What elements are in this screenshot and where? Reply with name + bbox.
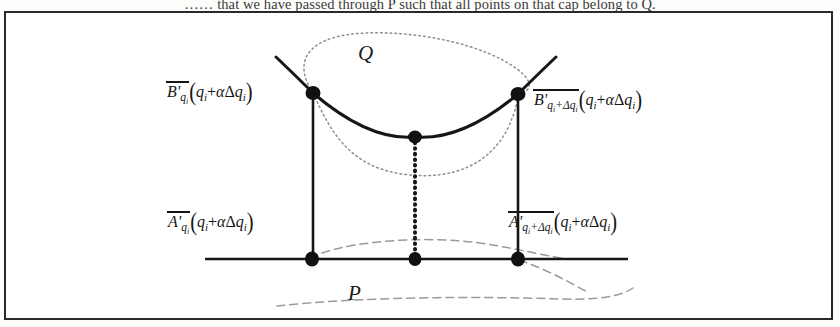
label-lower-right-sub-q-index: i: [550, 227, 552, 236]
label-upper-right-paren-open: (: [579, 88, 586, 112]
label-lower-right-delta: Δ: [589, 213, 599, 230]
label-lower-right-sub-plus: +: [530, 221, 538, 233]
label-upper-left: B'qi(qi+αΔqi): [166, 82, 253, 106]
label-upper-right-sub-delta: Δ: [563, 99, 570, 111]
label-upper-right: B'qi+Δqi(qi+αΔqi): [533, 90, 642, 114]
label-lower-right: A'qi+Δqi(qi+αΔqi): [508, 212, 617, 236]
label-lower-left-sub-index: i: [187, 227, 189, 236]
label-lower-left-head: A': [168, 213, 181, 230]
label-upper-right-alpha: α: [606, 91, 614, 108]
label-lower-right-sub-delta: Δ: [538, 221, 545, 233]
dot-upper-right: [511, 87, 526, 101]
label-lower-right-alpha: α: [581, 213, 589, 230]
figure-page: …… that we have passed through P such th…: [0, 0, 840, 327]
label-lower-left-paren-open: (: [190, 210, 197, 234]
region-label-q: Q: [358, 43, 373, 64]
label-upper-left-delta: Δ: [224, 83, 234, 100]
label-lower-left-argq: q: [236, 213, 244, 230]
label-lower-left-arg: q: [197, 213, 205, 230]
label-upper-left-paren-open: (: [189, 80, 196, 104]
label-upper-left-sub: qi: [180, 92, 188, 105]
label-upper-right-sub: qi+Δqi: [547, 100, 577, 113]
dot-upper-left: [306, 86, 321, 100]
label-upper-right-sub-plus: +: [555, 99, 563, 111]
label-lower-right-plus: +: [572, 213, 581, 230]
dot-lower-right: [511, 252, 525, 267]
label-lower-right-head: A': [509, 213, 522, 230]
label-upper-left-plus: +: [207, 83, 216, 100]
label-lower-left-paren-close: ): [247, 210, 254, 234]
figure-canvas: [0, 0, 840, 327]
label-upper-right-plus: +: [597, 91, 606, 108]
label-upper-left-sub-index: i: [186, 97, 188, 106]
label-upper-left-argq: q: [235, 83, 243, 100]
label-lower-left-overbar: A'qi: [167, 214, 190, 236]
region-label-p: P: [348, 283, 361, 304]
label-upper-left-head: B': [167, 83, 180, 100]
label-lower-right-paren-open: (: [554, 210, 561, 234]
label-lower-right-overbar: A'qi+Δqi: [508, 214, 554, 236]
label-lower-right-sub: qi+Δqi: [522, 222, 552, 235]
label-lower-left-sub: qi: [181, 222, 189, 235]
p-region-outline: [277, 240, 633, 306]
dot-curve-mid: [408, 131, 422, 144]
label-lower-left-delta: Δ: [225, 213, 235, 230]
label-upper-right-sub-q-index: i: [575, 105, 577, 114]
label-upper-right-paren-close: ): [635, 88, 642, 112]
dot-lower-left: [305, 252, 319, 267]
label-lower-left: A'qi(qi+αΔqi): [167, 212, 254, 236]
label-upper-right-head: B': [534, 91, 547, 108]
label-upper-left-overbar: B'qi: [166, 84, 189, 106]
label-upper-right-overbar: B'qi+Δqi: [533, 92, 579, 114]
label-lower-left-plus: +: [208, 213, 217, 230]
label-upper-right-delta: Δ: [614, 91, 624, 108]
label-upper-left-arg: q: [196, 83, 204, 100]
label-upper-left-paren-close: ): [246, 80, 253, 104]
label-lower-right-paren-close: ): [610, 210, 617, 234]
dot-lower-mid: [409, 252, 422, 266]
